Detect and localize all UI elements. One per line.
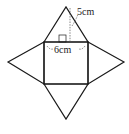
triangle-bottom xyxy=(44,84,88,119)
right-angle-mark xyxy=(59,35,66,42)
net-figure: 5cm 6cm xyxy=(0,0,129,134)
label-base-side: 6cm xyxy=(54,44,71,55)
label-slant-height: 5cm xyxy=(77,6,94,17)
pyramid-net-diagram: 5cm 6cm xyxy=(0,0,129,134)
base-brace-left xyxy=(47,46,53,49)
base-brace-right xyxy=(79,46,85,49)
triangle-right xyxy=(88,42,124,84)
triangle-left xyxy=(8,42,44,84)
